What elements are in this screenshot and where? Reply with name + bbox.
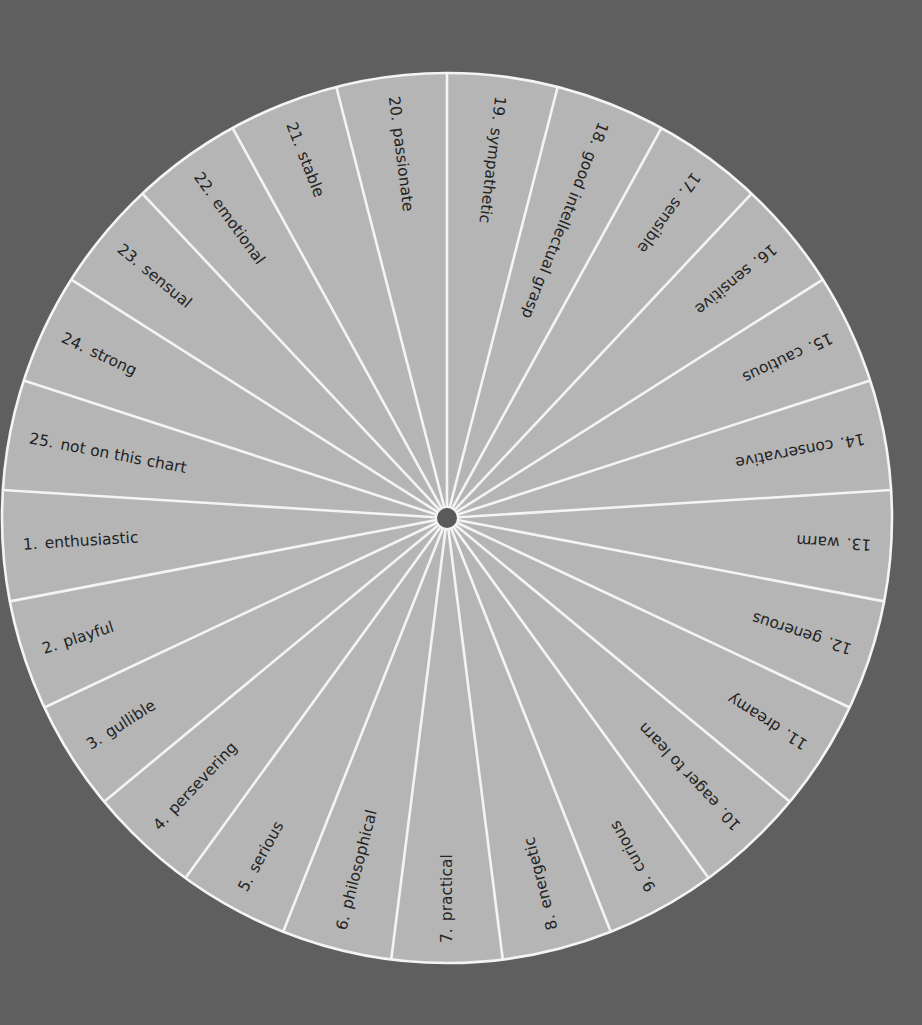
personality-wheel: 1.enthusiastic2.playful3.gullible4.perse… — [0, 0, 922, 1025]
segment-number: 13. — [846, 534, 872, 554]
segment-text: warm — [796, 531, 840, 552]
segment-number: 7. — [438, 928, 456, 943]
segment-text: practical — [438, 854, 456, 921]
segment-label-7: 7.practical — [438, 854, 456, 943]
wheel-hub — [436, 507, 458, 529]
segment-number: 19. — [488, 95, 509, 122]
segment-number: 20. — [385, 95, 406, 122]
segment-number: 1. — [22, 535, 38, 554]
